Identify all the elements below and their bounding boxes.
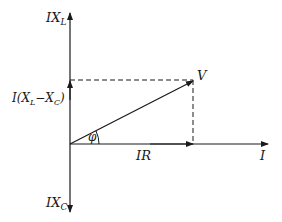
voltage-label: V <box>197 68 208 83</box>
net-reactive-label: I(XL−XC) <box>11 91 65 107</box>
current-label: I <box>259 148 266 163</box>
ixl-label: IXL <box>45 10 66 27</box>
ixc-label: IXC <box>45 195 67 212</box>
resistive-drop-label: IR <box>135 148 151 163</box>
phase-angle-label: φ <box>88 130 97 144</box>
phasor-diagram: IXL I(XL−XC) IXC V φ IR I <box>0 0 282 222</box>
phase-angle-arc <box>96 131 99 144</box>
